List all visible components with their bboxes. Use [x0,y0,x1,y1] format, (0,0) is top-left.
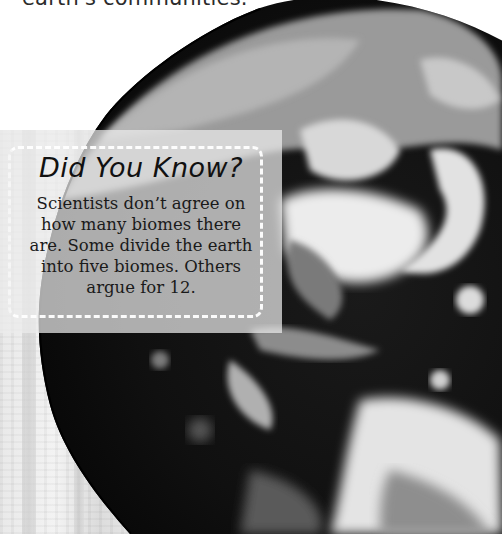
fact-line: argue for 12. [10,277,272,298]
fact-line: into five biomes. Others [10,256,272,277]
did-you-know-panel: Did You Know? Scientists don’t agree on … [0,130,282,333]
fact-box-title: Did You Know? [0,152,282,183]
intro-text-fragment: earth's communities. [22,0,248,10]
fact-line: are. Some divide the earth [10,235,272,256]
fact-line: Scientists don’t agree on [10,193,272,214]
fact-line: how many biomes there [10,214,272,235]
fact-box-body: Scientists don’t agree on how many biome… [10,193,272,298]
